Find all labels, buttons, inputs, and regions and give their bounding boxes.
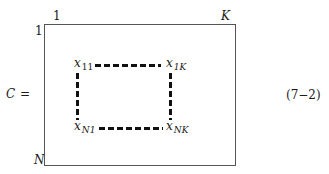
column-start-label: 1 xyxy=(53,10,61,22)
element-bottom-left: xN1 xyxy=(74,120,95,132)
dashed-top-edge xyxy=(95,64,161,67)
dashed-left-edge xyxy=(76,73,79,120)
element-subscript: N1 xyxy=(82,125,96,135)
equation-number: (7−2) xyxy=(286,89,321,101)
element-subscript: NK xyxy=(174,125,189,135)
element-bottom-right: xNK xyxy=(166,120,188,132)
dashed-right-edge xyxy=(169,73,172,120)
element-top-left: x11 xyxy=(74,57,93,69)
element-var: x xyxy=(166,119,173,133)
element-top-right: x1K xyxy=(166,57,186,69)
element-var: x xyxy=(166,56,173,70)
row-start-label: 1 xyxy=(35,25,43,37)
matrix-name-label: C xyxy=(6,88,15,100)
element-subscript: 11 xyxy=(82,62,93,72)
element-var: x xyxy=(74,56,81,70)
row-end-label: N xyxy=(34,154,45,166)
element-var: x xyxy=(74,119,81,133)
dashed-bottom-edge xyxy=(99,127,163,130)
element-subscript: 1K xyxy=(174,62,186,72)
equals-sign: = xyxy=(20,88,30,100)
matrix-boundary xyxy=(44,24,236,166)
column-end-label: K xyxy=(221,10,230,22)
